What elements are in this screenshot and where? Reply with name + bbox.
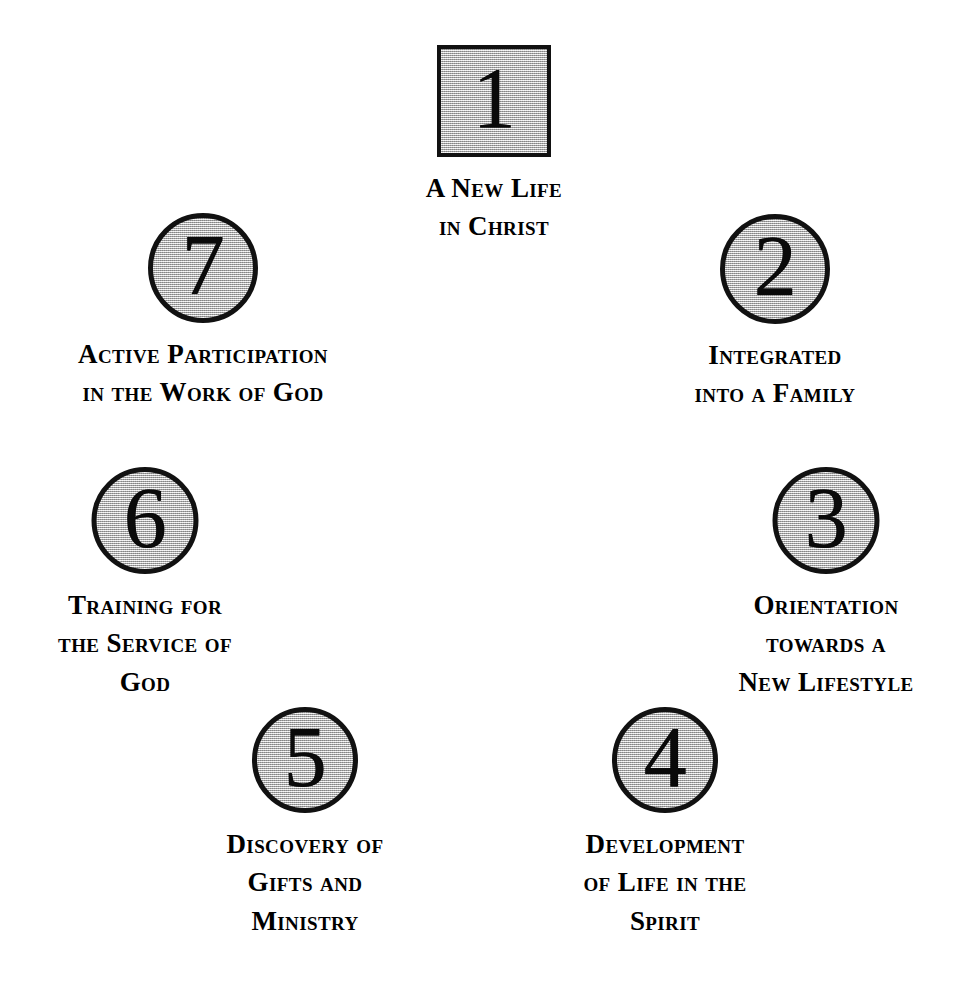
stage-2-caption-line-1: Integrated	[695, 336, 856, 374]
stage-7-circle-shape[interactable]: 7	[148, 213, 258, 323]
stage-3-caption-line-1: Orientation	[738, 586, 913, 624]
stage-1-caption: A New Life in Christ	[426, 169, 562, 246]
stage-4-caption-line-3: Spirit	[583, 902, 746, 940]
seven-stages-diagram: 1 A New Life in Christ 2 Integrated into…	[0, 0, 967, 995]
stage-4-number: 4	[644, 714, 687, 800]
stage-7-caption-line-2: in the Work of God	[78, 373, 328, 411]
stage-5-caption-line-1: Discovery of	[226, 825, 383, 863]
stage-6-number: 6	[124, 475, 167, 561]
stage-4-caption-line-1: Development	[583, 825, 746, 863]
stage-5-caption: Discovery of Gifts and Ministry	[226, 825, 383, 940]
stage-6-caption-line-2: the Service of	[58, 624, 232, 662]
stage-5-circle-shape[interactable]: 5	[252, 707, 358, 813]
stage-1-number: 1	[473, 55, 516, 141]
stage-4-circle-shape[interactable]: 4	[612, 707, 718, 813]
stage-1-caption-line-1: A New Life	[426, 169, 562, 207]
stage-3-caption: Orientation towards a New Lifestyle	[738, 586, 913, 701]
stage-2-caption-line-2: into a Family	[695, 374, 856, 412]
stage-2-number: 2	[754, 223, 797, 309]
stage-7-caption-line-1: Active Participation	[78, 335, 328, 373]
stage-3-caption-line-3: New Lifestyle	[738, 663, 913, 701]
stage-3-number: 3	[805, 475, 848, 561]
stage-3-circle-shape[interactable]: 3	[773, 467, 880, 574]
stage-5-number: 5	[284, 714, 327, 800]
stage-4-caption-line-2: of Life in the	[583, 863, 746, 901]
stage-5-caption-line-2: Gifts and	[226, 863, 383, 901]
stage-6-caption: Training for the Service of God	[58, 586, 232, 701]
stage-1-caption-line-2: in Christ	[426, 207, 562, 245]
stage-4-caption: Development of Life in the Spirit	[583, 825, 746, 940]
stage-6-caption-line-3: God	[58, 663, 232, 701]
stage-2-caption: Integrated into a Family	[695, 336, 856, 413]
stage-2-circle-shape[interactable]: 2	[720, 214, 830, 324]
stage-1-square-shape[interactable]: 1	[437, 45, 551, 157]
stage-6-caption-line-1: Training for	[58, 586, 232, 624]
stage-7-number: 7	[182, 222, 225, 308]
stage-3-caption-line-2: towards a	[738, 624, 913, 662]
stage-5-caption-line-3: Ministry	[226, 902, 383, 940]
stage-6-circle-shape[interactable]: 6	[92, 467, 199, 574]
stage-7-caption: Active Participation in the Work of God	[78, 335, 328, 412]
